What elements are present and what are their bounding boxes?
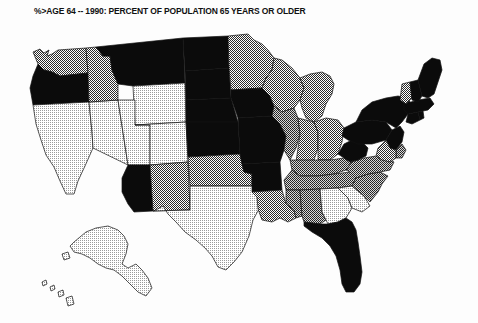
state-michigan[interactable] (300, 72, 334, 122)
state-hawaii-island-3[interactable] (58, 290, 64, 297)
state-hawaii-island-2[interactable] (50, 285, 55, 291)
state-kansas[interactable] (186, 122, 240, 157)
state-wyoming[interactable] (133, 83, 186, 125)
state-florida[interactable] (304, 218, 362, 292)
map-page: %>AGE 64 -- 1990: PERCENT OF POPULATION … (0, 0, 478, 323)
state-alaska[interactable] (70, 226, 152, 296)
choropleth-map (0, 26, 478, 323)
state-nebraska[interactable] (186, 98, 238, 122)
state-hawaii-island-1[interactable] (42, 280, 47, 286)
state-hawaii-island-4[interactable] (66, 296, 74, 306)
state-southdakota[interactable] (185, 68, 231, 100)
state-pennsylvania[interactable] (342, 120, 392, 144)
state-california[interactable] (33, 102, 93, 194)
state-maine[interactable] (418, 58, 442, 98)
alaska-aleutians[interactable] (62, 252, 70, 260)
state-northdakota[interactable] (183, 36, 229, 71)
state-newmexico[interactable] (150, 162, 190, 211)
state-arizona[interactable] (122, 165, 153, 212)
us-map-svg (0, 26, 478, 323)
page-title: %>AGE 64 -- 1990: PERCENT OF POPULATION … (34, 6, 305, 16)
